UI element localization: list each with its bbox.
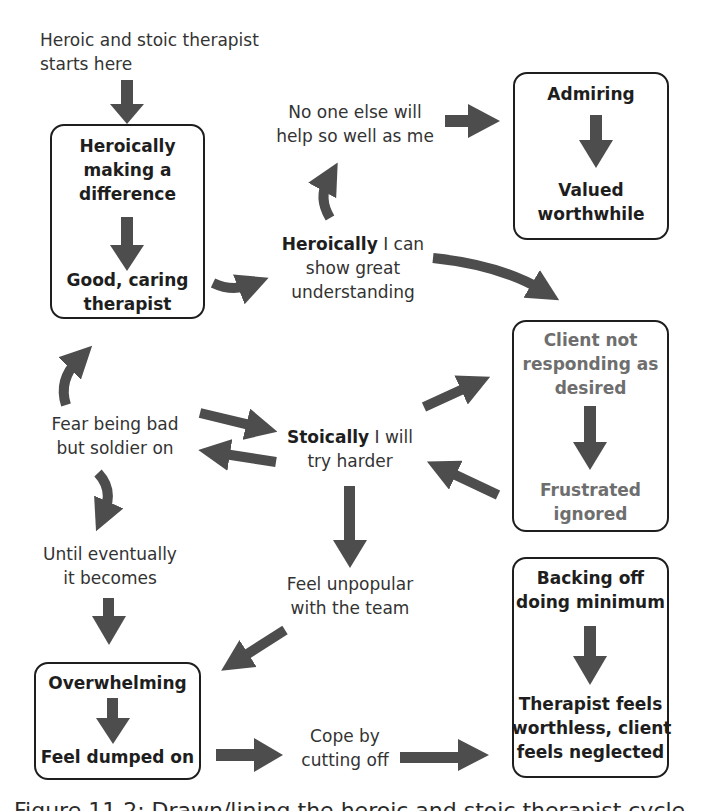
- cope-line2: cutting off: [290, 748, 400, 772]
- backing-bottom-line3: feels neglected: [512, 740, 669, 764]
- admiring-bottom-line1: Valued: [513, 178, 669, 202]
- diagram-canvas: Heroic and stoic therapist starts here H…: [0, 0, 703, 811]
- backing-bottom-line2: worthless, client: [512, 716, 669, 740]
- backing-top-line2: doing minimum: [512, 590, 669, 614]
- until-line2: it becomes: [35, 566, 185, 590]
- arrow-fear-to-until-icon: [98, 473, 108, 513]
- heroically-bold: Heroically: [282, 234, 378, 254]
- heroic-top-line1: Heroically: [50, 134, 205, 158]
- feel-unpopular-node: Feel unpopular with the team: [275, 572, 425, 620]
- heroic-box-bottom: Good, caring therapist: [50, 268, 205, 316]
- arrow-stoic-to-client-icon: [424, 385, 472, 407]
- arrow-unpopular-to-overwhelming-icon: [238, 630, 285, 660]
- arrow-understanding-to-noone-icon: [323, 180, 330, 218]
- start-label-line2: starts here: [40, 52, 259, 76]
- until-line1: Until eventually: [35, 542, 185, 566]
- arrow-fear-to-heroic-icon: [64, 360, 78, 405]
- arrow-fear-to-stoic-icon: [200, 413, 258, 427]
- start-label: Heroic and stoic therapist starts here: [40, 28, 259, 76]
- arrow-heroic-to-understanding-icon: [213, 283, 250, 288]
- unpopular-line1: Feel unpopular: [275, 572, 425, 596]
- fear-line1: Fear being bad: [40, 412, 190, 436]
- heroic-top-line2: making a: [50, 158, 205, 182]
- arrow-start-down-icon: [110, 80, 144, 124]
- client-top-line2: responding as: [512, 352, 669, 376]
- client-bottom-line2: ignored: [512, 502, 669, 526]
- no-one-else-line1: No one else will: [270, 100, 440, 124]
- admiring-box-top: Admiring: [513, 82, 669, 106]
- heroic-bottom-line1: Good, caring: [50, 268, 205, 292]
- client-bottom-line1: Frustrated: [512, 478, 669, 502]
- cope-line1: Cope by: [290, 724, 400, 748]
- arrow-overwhelming-cope-icon: [216, 738, 283, 772]
- arrow-stoic-down-icon: [333, 486, 367, 568]
- heroically-line1: Heroically I can: [268, 232, 438, 256]
- cope-by-node: Cope by cutting off: [290, 724, 400, 772]
- stoically-line1: Stoically I will: [280, 425, 420, 449]
- overwhelming-box-top: Overwhelming: [34, 671, 201, 695]
- start-label-line1: Heroic and stoic therapist: [40, 28, 259, 52]
- admiring-top-line1: Admiring: [513, 82, 669, 106]
- heroic-top-line3: difference: [50, 182, 205, 206]
- heroically-line3: understanding: [268, 280, 438, 304]
- client-top-line3: desired: [512, 376, 669, 400]
- backing-off-box-top: Backing off doing minimum: [512, 566, 669, 614]
- stoically-node: Stoically I will try harder: [280, 425, 420, 473]
- arrow-stoic-to-fear-icon: [218, 453, 276, 462]
- arrow-until-down-icon: [92, 598, 126, 645]
- overwhelming-top-line1: Overwhelming: [34, 671, 201, 695]
- heroically-line2: show great: [268, 256, 438, 280]
- heroic-box-top: Heroically making a difference: [50, 134, 205, 206]
- no-one-else-line2: help so well as me: [270, 124, 440, 148]
- client-box-top: Client not responding as desired: [512, 328, 669, 400]
- backing-off-box-bottom: Therapist feels worthless, client feels …: [512, 692, 669, 764]
- fear-line2: but soldier on: [40, 436, 190, 460]
- fear-being-bad-node: Fear being bad but soldier on: [40, 412, 190, 460]
- no-one-else-node: No one else will help so well as me: [270, 100, 440, 148]
- overwhelming-bottom-line1: Feel dumped on: [34, 745, 201, 769]
- unpopular-line2: with the team: [275, 596, 425, 620]
- client-top-line1: Client not: [512, 328, 669, 352]
- admiring-bottom-line2: worthwhile: [513, 202, 669, 226]
- overwhelming-box-bottom: Feel dumped on: [34, 745, 201, 769]
- arrow-understanding-to-client-icon: [433, 258, 542, 290]
- stoically-bold: Stoically: [287, 427, 369, 447]
- figure-caption: Figure 11.2: Drawn/lining the heroic and…: [0, 797, 703, 811]
- until-eventually-node: Until eventually it becomes: [35, 542, 185, 590]
- arrow-cope-backing-icon: [400, 739, 489, 771]
- admiring-box-bottom: Valued worthwhile: [513, 178, 669, 226]
- arrow-client-to-stoic-icon: [445, 470, 498, 495]
- arrow-noone-admiring-icon: [445, 104, 500, 138]
- client-box-bottom: Frustrated ignored: [512, 478, 669, 526]
- backing-bottom-line1: Therapist feels: [512, 692, 669, 716]
- heroic-bottom-line2: therapist: [50, 292, 205, 316]
- stoically-rest: I will: [369, 427, 413, 447]
- backing-top-line1: Backing off: [512, 566, 669, 590]
- heroically-i-can-node: Heroically I can show great understandin…: [268, 232, 438, 304]
- stoically-line2: try harder: [280, 449, 420, 473]
- heroically-rest: I can: [378, 234, 424, 254]
